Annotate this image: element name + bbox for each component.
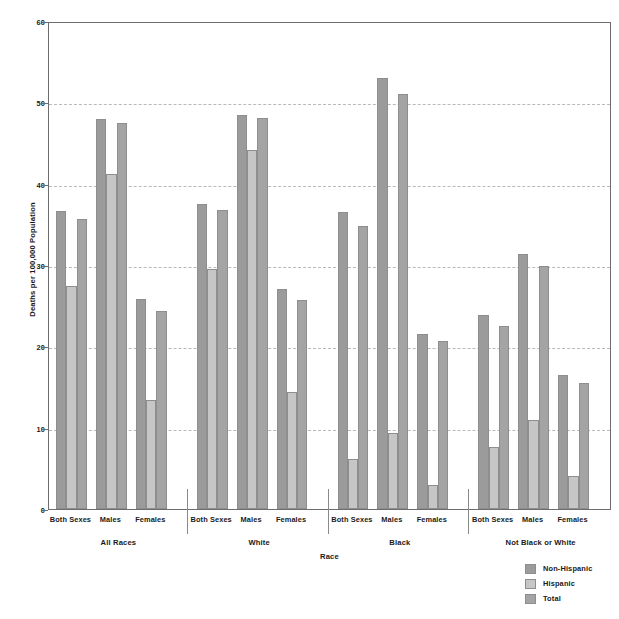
bar bbox=[388, 433, 398, 509]
legend-item: Non-Hispanic bbox=[525, 561, 592, 576]
bar bbox=[247, 150, 257, 509]
bar bbox=[66, 286, 76, 509]
bar bbox=[117, 123, 127, 509]
legend-swatch-total bbox=[525, 594, 536, 604]
y-tick-label: 0 bbox=[17, 506, 45, 515]
x-group-label: All Races bbox=[48, 538, 189, 547]
bar bbox=[568, 476, 578, 509]
x-tick-label: Females bbox=[543, 515, 602, 526]
bar bbox=[539, 266, 549, 509]
bar bbox=[136, 299, 146, 509]
legend-label: Hispanic bbox=[543, 579, 575, 588]
bar bbox=[478, 315, 488, 509]
y-tick-mark bbox=[42, 510, 48, 511]
bar-chart: Deaths per 100,000 Population 0102030405… bbox=[0, 0, 619, 619]
gridline bbox=[49, 186, 610, 187]
bar bbox=[348, 459, 358, 509]
legend: Non-HispanicHispanicTotal bbox=[525, 561, 592, 606]
legend-label: Total bbox=[543, 594, 561, 603]
bar bbox=[146, 400, 156, 509]
legend-item: Hispanic bbox=[525, 576, 592, 591]
bar bbox=[489, 447, 499, 509]
bar bbox=[518, 254, 528, 509]
legend-swatch-hispanic bbox=[525, 579, 536, 589]
y-tick-label: 10 bbox=[17, 425, 45, 434]
x-group-label: White bbox=[189, 538, 330, 547]
bar bbox=[287, 392, 297, 509]
plot-area bbox=[48, 22, 611, 510]
legend-label: Non-Hispanic bbox=[543, 564, 592, 573]
x-tick-label: Females bbox=[262, 515, 321, 526]
bar bbox=[56, 211, 66, 509]
x-tick-label: Females bbox=[402, 515, 461, 526]
bar bbox=[558, 375, 568, 509]
bar bbox=[217, 210, 227, 509]
y-tick-label: 20 bbox=[17, 343, 45, 352]
bar bbox=[277, 289, 287, 509]
bar bbox=[377, 78, 387, 509]
bar bbox=[338, 212, 348, 509]
x-tick-label: Females bbox=[121, 515, 180, 526]
bar bbox=[528, 420, 538, 509]
x-group-label: Not Black or White bbox=[470, 538, 611, 547]
group-separator bbox=[328, 489, 329, 534]
bar bbox=[96, 119, 106, 509]
group-separator bbox=[187, 489, 188, 534]
bar bbox=[297, 300, 307, 509]
bar bbox=[156, 311, 166, 509]
bar bbox=[579, 383, 589, 509]
bar bbox=[207, 269, 217, 509]
y-tick-label: 40 bbox=[17, 181, 45, 190]
bar bbox=[398, 94, 408, 509]
x-group-label: Black bbox=[330, 538, 471, 547]
y-tick-label: 50 bbox=[17, 99, 45, 108]
bar bbox=[237, 115, 247, 509]
y-tick-label: 60 bbox=[17, 18, 45, 27]
legend-item: Total bbox=[525, 591, 592, 606]
bar bbox=[257, 118, 267, 509]
y-tick-label: 30 bbox=[17, 262, 45, 271]
bar bbox=[428, 485, 438, 509]
bar bbox=[438, 341, 448, 509]
bar bbox=[106, 174, 116, 509]
bar bbox=[417, 334, 427, 509]
bar bbox=[77, 219, 87, 509]
group-separator bbox=[468, 489, 469, 534]
bar bbox=[358, 226, 368, 509]
bar bbox=[197, 204, 207, 509]
bar bbox=[499, 326, 509, 509]
legend-swatch-nonhispanic bbox=[525, 564, 536, 574]
gridline bbox=[49, 104, 610, 105]
x-axis-title: Race bbox=[48, 552, 611, 561]
